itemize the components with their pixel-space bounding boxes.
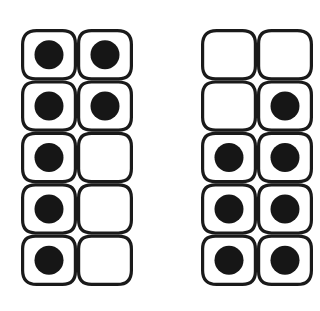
right-panel [201,29,313,286]
diagram-canvas [0,0,320,311]
dot-r3-c2 [271,143,300,172]
dot-r1-c2 [91,40,120,69]
cell-r5-c2[interactable] [79,236,132,284]
dot-r5-c2 [271,246,300,275]
dot-r2-c2 [91,92,120,121]
dot-r4-c2 [271,194,300,223]
cell-r2-c1[interactable] [203,82,256,130]
dot-r1-c1 [35,40,64,69]
cell-r1-c2[interactable] [259,31,312,79]
dot-r3-c1 [35,143,64,172]
dot-r5-c1 [35,246,64,275]
dot-r4-c1 [35,194,64,223]
cell-r1-c1[interactable] [203,31,256,79]
dot-r3-c1 [215,143,244,172]
cell-r4-c2[interactable] [79,185,132,233]
dot-r5-c1 [215,246,244,275]
dot-r2-c1 [35,92,64,121]
dot-r2-c2 [271,92,300,121]
cell-r3-c2[interactable] [79,133,132,181]
left-panel [21,29,133,286]
dot-r4-c1 [215,194,244,223]
